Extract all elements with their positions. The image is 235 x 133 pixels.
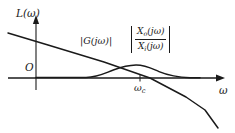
abs-bar-right <box>169 26 170 53</box>
crossover-frequency-subscript: c <box>142 87 146 95</box>
magnitude-ratio-fraction: Xo(jω) Xi(jω) <box>135 26 166 53</box>
y-axis-label: L(ω) <box>16 8 40 19</box>
fraction-denominator: Xi(jω) <box>136 41 166 53</box>
closed-loop-curve-label: Xo(jω) Xi(jω) <box>128 26 173 53</box>
origin-label: O <box>25 62 34 73</box>
crossover-frequency-label: ωc <box>134 83 146 95</box>
fraction-numerator: Xo(jω) <box>135 26 166 38</box>
crossover-frequency-symbol: ω <box>134 82 142 93</box>
open-loop-magnitude-curve <box>8 33 218 128</box>
x-axis-arrowhead <box>216 75 225 82</box>
abs-bar-left <box>131 26 132 53</box>
open-loop-curve-label: |G(jω)| <box>80 36 112 46</box>
x-axis-label: ω <box>219 85 228 96</box>
plot-canvas <box>0 0 235 133</box>
numerator-argument: (jω) <box>147 26 164 36</box>
fraction-rule <box>135 39 166 40</box>
bode-magnitude-figure: L(ω) ω O |G(jω)| ωc Xo(jω) Xi(jω) <box>0 0 235 133</box>
denominator-argument: (jω) <box>146 41 163 51</box>
y-axis-group <box>33 15 39 90</box>
